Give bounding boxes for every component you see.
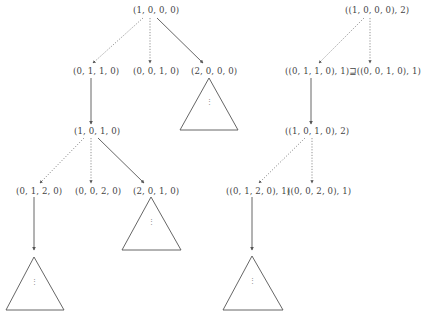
edge-rroot-to-left (319, 18, 364, 63)
node-label-right-0120: ((0, 1, 2, 0), 1) (226, 186, 290, 196)
edge-r2-to-0120 (259, 138, 305, 183)
node-label-0110: (0, 1, 1, 0) (73, 66, 119, 76)
node-label-2010: (2, 0, 1, 0) (133, 186, 179, 196)
ellipsis-icon: ⋮ (31, 280, 37, 284)
node-label-1010: (1, 0, 1, 0) (74, 126, 120, 136)
node-label-right-level2: ((1, 0, 1, 0), 2) (285, 126, 349, 136)
node-label-root: (1, 0, 0, 0) (133, 5, 179, 15)
node-label-right-level1: ((0, 1, 1, 0), 1)⊒((0, 0, 1, 0), 1) (285, 66, 421, 76)
ellipsis-icon: ⋮ (148, 220, 154, 224)
node-label-right-0020: ((0, 0, 2, 0), 1) (287, 186, 351, 196)
ellipsis-icon: ⋮ (206, 100, 212, 104)
node-label-2000: (2, 0, 0, 0) (191, 66, 237, 76)
ellipsis-icon: ⋮ (249, 279, 255, 283)
edge-root-to-0110 (93, 18, 143, 63)
edge-1010-to-2010 (98, 138, 144, 183)
edge-root-to-2000 (157, 18, 203, 63)
node-label-0010: (0, 0, 1, 0) (133, 66, 179, 76)
edge-1010-to-0120 (40, 138, 84, 183)
node-label-right-root: ((1, 0, 0, 0), 2) (345, 5, 409, 15)
node-label-0020: (0, 0, 2, 0) (75, 186, 121, 196)
node-label-0120: (0, 1, 2, 0) (16, 186, 62, 196)
